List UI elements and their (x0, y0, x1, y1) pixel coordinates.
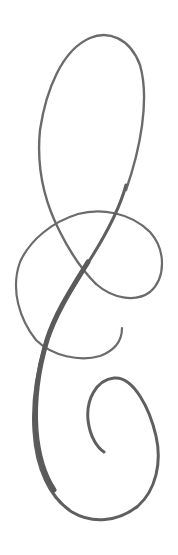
flourish-canvas (0, 0, 178, 555)
middle-loop-right (16, 211, 162, 358)
flourish-ornament-icon (0, 0, 178, 555)
top-loop (39, 35, 144, 284)
main-thick-stroke-shade (35, 262, 88, 490)
